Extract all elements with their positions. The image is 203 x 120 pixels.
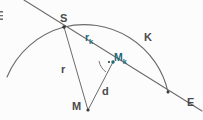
label-K: K (144, 31, 152, 43)
geometry-diagram: E S K r M d E rk Mk (0, 0, 203, 120)
point-M-marker (86, 108, 89, 111)
secant-line-SE (24, 0, 202, 111)
label-r: r (61, 63, 66, 75)
label-d: d (102, 85, 109, 97)
right-angle-dot-icon (108, 61, 110, 63)
label-rk: rk (85, 31, 94, 46)
label-M: M (72, 100, 81, 112)
label-E: E (187, 96, 194, 108)
point-intersection-marker (167, 91, 170, 94)
point-S-marker (62, 25, 66, 29)
diagram-canvas: S K r M d E rk Mk (0, 0, 203, 120)
cropped-edge-glyph: E (0, 9, 3, 23)
label-rk-subscript: k (89, 37, 94, 46)
label-Mk-base: M (114, 51, 123, 63)
label-S: S (60, 12, 67, 24)
right-angle-arc-marker (99, 61, 106, 72)
distance-segment-d (88, 62, 113, 110)
label-Mk: Mk (114, 51, 128, 66)
